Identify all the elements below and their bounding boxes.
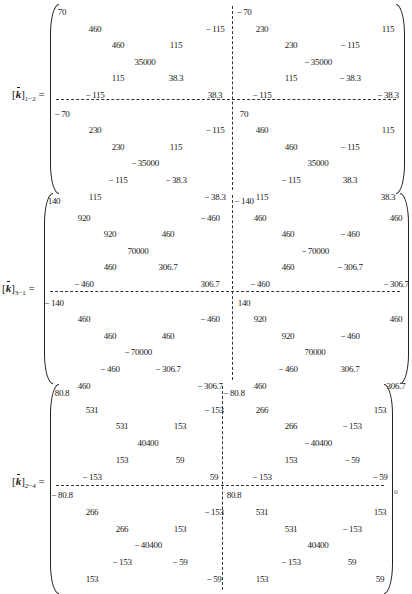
matrix-entry: 266 bbox=[256, 405, 269, 415]
matrix-entry: 230 bbox=[89, 125, 102, 135]
matrix-entry: 115 bbox=[285, 73, 297, 83]
matrix-entry: 460 bbox=[104, 331, 117, 341]
matrix-entry: 115 bbox=[382, 24, 394, 34]
matrix-entry: − 153 bbox=[342, 524, 361, 534]
matrix-entry: − 153 bbox=[342, 421, 361, 431]
matrix-entry: − 38.3 bbox=[204, 192, 225, 202]
matrix-entry: 460 bbox=[104, 262, 117, 272]
partition-horizontal bbox=[56, 99, 396, 100]
right-parenthesis bbox=[384, 384, 393, 594]
matrix-entry: 140 bbox=[48, 196, 61, 206]
matrix-entry: − 115 bbox=[206, 125, 225, 135]
matrix-entry: 460 bbox=[256, 125, 269, 135]
matrix-entry: − 115 bbox=[109, 175, 128, 185]
matrix-entry: 230 bbox=[256, 24, 269, 34]
matrix-entry: − 460 bbox=[100, 364, 119, 374]
matrix-entry: 70 bbox=[240, 109, 248, 119]
matrix-entry: 531 bbox=[256, 507, 269, 517]
matrix-entry: − 153 bbox=[112, 557, 131, 567]
matrix-entry: 70000 bbox=[304, 347, 325, 357]
matrix-entry: − 59 bbox=[206, 574, 221, 584]
matrix-entry: 70000 bbox=[127, 246, 148, 256]
matrix-entry: 531 bbox=[86, 405, 99, 415]
matrix-entry: − 306.7 bbox=[155, 364, 180, 374]
matrix-entry: − 40400 bbox=[304, 438, 332, 448]
matrix-entry: 80.8 bbox=[55, 388, 70, 398]
matrix-entry: 59 bbox=[348, 557, 356, 567]
partition-horizontal bbox=[50, 291, 400, 292]
matrix-entry: − 140 bbox=[44, 298, 63, 308]
matrix-entry: − 115 bbox=[341, 40, 360, 50]
matrix-entry: − 35000 bbox=[304, 57, 332, 67]
left-parenthesis bbox=[44, 193, 53, 384]
matrix-symbol: k bbox=[16, 475, 22, 487]
matrix-entry: 38.3 bbox=[343, 175, 358, 185]
matrix-entry: − 153 bbox=[281, 557, 300, 567]
matrix-entry: 460 bbox=[285, 142, 298, 152]
matrix-entry: − 460 bbox=[278, 364, 297, 374]
matrix-entry: − 306.7 bbox=[337, 262, 362, 272]
matrix-entry: 460 bbox=[390, 314, 403, 324]
matrix-entry: − 153 bbox=[252, 472, 271, 482]
matrix-entry: 153 bbox=[86, 574, 99, 584]
matrix-entry: 153 bbox=[174, 421, 187, 431]
matrix-entry: 40400 bbox=[137, 438, 158, 448]
matrix-symbol: k bbox=[6, 282, 12, 294]
matrix-entry: 140 bbox=[238, 298, 251, 308]
matrix-entry: 59 bbox=[376, 574, 384, 584]
matrix-entry: − 70000 bbox=[124, 347, 152, 357]
matrix-entry: − 460 bbox=[200, 213, 219, 223]
matrix-entry: 460 bbox=[162, 229, 175, 239]
matrix-entry: − 70 bbox=[54, 109, 69, 119]
matrix-entry: − 460 bbox=[200, 314, 219, 324]
matrix-entry: 266 bbox=[285, 421, 298, 431]
matrix-entry: − 70 bbox=[236, 7, 251, 17]
matrix-entry: 531 bbox=[285, 524, 298, 534]
left-parenthesis bbox=[50, 384, 59, 594]
matrix-entry: 115 bbox=[170, 142, 182, 152]
matrix-entry: 531 bbox=[116, 421, 129, 431]
matrix-entry: 920 bbox=[78, 213, 91, 223]
matrix-entry: − 38.3 bbox=[339, 73, 360, 83]
matrix-entry: 115 bbox=[170, 40, 182, 50]
matrix-entry: − 35000 bbox=[131, 158, 159, 168]
matrix-entry: 460 bbox=[78, 314, 91, 324]
matrix-entry: − 460 bbox=[340, 229, 359, 239]
partition-vertical bbox=[232, 6, 233, 190]
matrix-entry: − 140 bbox=[234, 196, 253, 206]
matrix-entry: 460 bbox=[89, 24, 102, 34]
matrix-entry: 306.7 bbox=[341, 364, 360, 374]
matrix-entry: 153 bbox=[256, 574, 269, 584]
matrix-entry: 920 bbox=[254, 314, 267, 324]
matrix-entry: 230 bbox=[285, 40, 298, 50]
matrix-entry: 920 bbox=[104, 229, 117, 239]
matrix-entry: − 59 bbox=[172, 557, 187, 567]
matrix-subscript: 2−4 bbox=[25, 482, 36, 490]
matrix-entry: 40400 bbox=[307, 540, 328, 550]
matrix-entry: − 115 bbox=[86, 90, 105, 100]
matrix-subscript: 3−1 bbox=[15, 289, 26, 297]
matrix-entry: − 80.8 bbox=[51, 490, 72, 500]
matrix-entry: 920 bbox=[282, 331, 295, 341]
matrix-label: [k]1−2 = bbox=[12, 88, 45, 103]
matrix-entry: 38.3 bbox=[381, 192, 396, 202]
matrix-entry: 35000 bbox=[307, 158, 328, 168]
matrix-subscript: 1−2 bbox=[25, 95, 36, 103]
matrix-entry: 153 bbox=[374, 507, 387, 517]
matrix-entry: 306.7 bbox=[159, 262, 178, 272]
matrix-entry: − 153 bbox=[204, 405, 223, 415]
matrix-entry: − 115 bbox=[282, 175, 301, 185]
matrix-entry: − 38.3 bbox=[165, 175, 186, 185]
partition-vertical bbox=[232, 195, 233, 380]
matrix-entry: 115 bbox=[89, 192, 101, 202]
matrix-entry: 460 bbox=[254, 213, 267, 223]
matrix-entry: − 38.3 bbox=[377, 90, 398, 100]
matrix-entry: 153 bbox=[116, 455, 129, 465]
matrix-entry: 460 bbox=[254, 381, 267, 391]
matrix-entry: 35000 bbox=[134, 57, 155, 67]
matrix-entry: 115 bbox=[112, 73, 124, 83]
matrix-label: [k]2−4 = bbox=[12, 475, 45, 490]
matrix-entry: − 306.7 bbox=[197, 381, 222, 391]
matrix-entry: − 115 bbox=[253, 90, 272, 100]
matrix-entry: 38.3 bbox=[169, 73, 184, 83]
